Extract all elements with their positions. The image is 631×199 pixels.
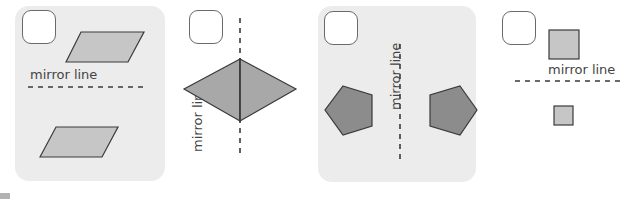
square-large	[549, 30, 579, 59]
pentagon-right	[430, 86, 477, 135]
kite-left	[184, 59, 240, 121]
square-small	[554, 106, 573, 125]
parallelogram-bottom	[40, 127, 118, 157]
pentagon-left	[325, 86, 372, 135]
parallelogram-top	[66, 32, 144, 62]
page-corner-mark	[0, 193, 10, 199]
shapes-canvas	[0, 0, 631, 199]
kite-right	[240, 59, 296, 121]
